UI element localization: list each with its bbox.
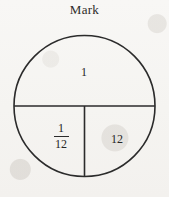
slice-label-bottom-left: 1 12 — [41, 122, 81, 151]
fraction-one-twelfth: 1 12 — [53, 122, 69, 151]
fraction-denominator: 12 — [53, 138, 69, 151]
fraction-numerator: 1 — [53, 122, 69, 135]
slice-label-top: 1 — [64, 66, 104, 79]
circle-fraction-diagram — [0, 0, 169, 197]
slice-label-bottom-right: 12 — [97, 133, 137, 146]
